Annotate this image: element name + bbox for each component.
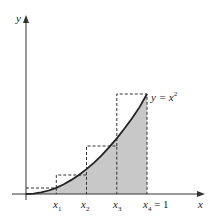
- y-axis-arrow-icon: [23, 15, 29, 23]
- function-label-text: y = x: [150, 91, 174, 103]
- x-axis-arrow-icon: [197, 191, 205, 197]
- function-label: y = x2: [150, 90, 178, 103]
- function-exponent: 2: [174, 90, 178, 98]
- x-axis-label: x: [197, 198, 203, 210]
- y-axis-label: y: [15, 12, 21, 24]
- tick-label-x4: x4 = 1: [142, 198, 169, 213]
- tick-labels: x1 x2 x3 x4 = 1: [52, 198, 169, 213]
- tick-label-x3: x3: [112, 198, 122, 213]
- tick-label-x1: x1: [52, 198, 62, 213]
- tick-label-x2: x2: [80, 198, 90, 213]
- riemann-sum-diagram: y x y = x2 x1 x2 x3 x4 = 1: [0, 0, 217, 220]
